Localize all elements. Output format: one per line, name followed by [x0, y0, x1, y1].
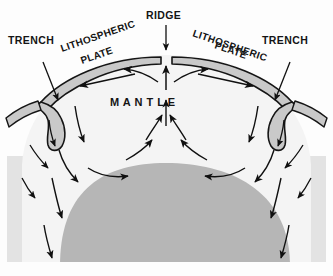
tectonics-diagram: TRENCH TRENCH RIDGE LITHOSPHERIC PLATE L… — [0, 0, 333, 276]
label-mantle: M A N T L E — [110, 96, 176, 108]
label-ridge: RIDGE — [146, 9, 181, 21]
label-trench-left: TRENCH — [8, 34, 54, 46]
label-trench-right: TRENCH — [262, 34, 308, 46]
